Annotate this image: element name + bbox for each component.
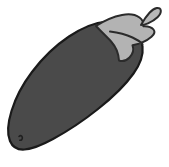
eggplant-illustration: Line drawing of an eggplant with a calyx… <box>0 0 169 167</box>
eggplant-vector-drawing <box>0 0 169 167</box>
eggplant-stem-shape <box>141 8 161 25</box>
